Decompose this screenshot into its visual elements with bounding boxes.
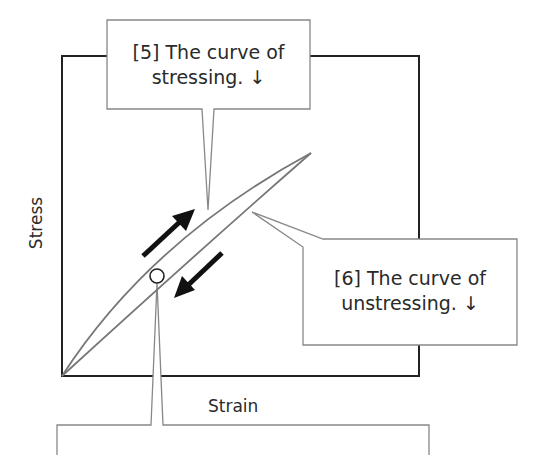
stressing-arrow-icon — [143, 209, 195, 256]
callout-5-line2: stressing. ↓ — [107, 65, 310, 90]
callout-5-line1: [5] The curve of — [107, 40, 310, 65]
y-axis-label: Stress — [26, 193, 46, 253]
callout-6-line2: unstressing. ↓ — [303, 291, 517, 316]
callout-6-text: [6] The curve of unstressing. ↓ — [303, 266, 517, 316]
x-axis-label: Strain — [208, 396, 258, 416]
unstressing-curve — [62, 153, 311, 376]
callout-6-line1: [6] The curve of — [303, 266, 517, 291]
callout-5-text: [5] The curve of stressing. ↓ — [107, 40, 310, 90]
unstressing-arrow-icon — [174, 253, 222, 298]
point-marker — [150, 269, 164, 283]
